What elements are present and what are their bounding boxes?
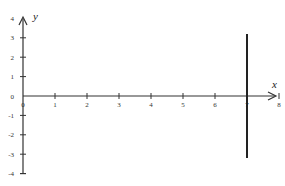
- x-tick-label: 2: [85, 101, 89, 109]
- y-tick-label: -1: [8, 112, 14, 120]
- y-tick-label: 0: [11, 93, 15, 101]
- x-tick-label: 0: [21, 101, 25, 109]
- x-tick-label: 6: [213, 101, 217, 109]
- y-tick-label: 1: [11, 73, 15, 81]
- x-tick-label: 5: [181, 101, 185, 109]
- y-axis-label: y: [32, 10, 38, 22]
- y-tick-label: 4: [11, 15, 15, 23]
- axes: [19, 17, 276, 174]
- x-tick-label: 8: [277, 101, 281, 109]
- y-tick-label: 3: [11, 34, 15, 42]
- y-tick-label: -3: [8, 151, 14, 159]
- x-tick-label: 3: [117, 101, 121, 109]
- y-tick-label: -4: [8, 170, 14, 178]
- x-axis-label: x: [271, 78, 277, 90]
- y-tick-label: -2: [8, 131, 14, 139]
- x-tick-label: 4: [149, 101, 153, 109]
- y-tick-label: 2: [11, 54, 15, 62]
- chart: 012345678 43210-1-2-3-4 x y: [0, 0, 285, 186]
- x-tick-label: 1: [53, 101, 57, 109]
